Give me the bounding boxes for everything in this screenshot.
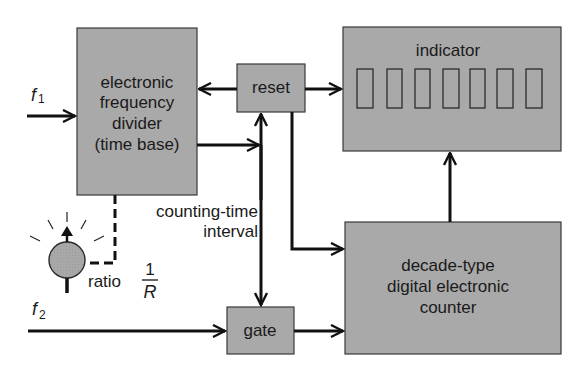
svg-text:divider: divider [112,114,162,133]
divider-label-line-1: electronic [101,73,174,92]
ratio-denominator: R [144,282,157,302]
svg-text:indicator: indicator [416,41,481,60]
svg-text:decade-type: decade-type [401,256,495,275]
counter-block: decade-type digital electronic counter [345,222,561,354]
svg-text:interval: interval [203,222,258,241]
svg-text:1: 1 [145,260,154,279]
svg-text:ratio: ratio [88,272,121,291]
block-diagram: electronic frequency divider (time base)… [0,0,582,379]
ratio-numerator: 1 [145,260,154,279]
counter-label-line-3: counter [420,298,477,317]
gate-label: gate [243,321,276,340]
svg-text:electronic: electronic [101,73,174,92]
counting-time-interval-label: counting-time interval [156,202,258,241]
f1-label: f1 [31,85,45,106]
dashed-link-knob-to-divider [86,195,115,263]
svg-text:reset: reset [252,78,290,97]
reset-label: reset [252,78,290,97]
svg-text:digital electronic: digital electronic [387,277,509,296]
gate-block: gate [227,307,294,354]
f2-label: f2 [32,299,46,322]
svg-text:gate: gate [243,321,276,340]
svg-text:(time base): (time base) [94,135,179,154]
divider-block: electronic frequency divider (time base) [77,28,197,195]
svg-text:f1: f1 [31,85,45,106]
divider-label-line-4: (time base) [94,135,179,154]
divider-label-line-2: frequency [100,93,175,112]
svg-text:R: R [144,282,157,302]
knob-pointer-arrowhead-icon [61,226,73,236]
counter-label-line-2: digital electronic [387,277,509,296]
indicator-block: indicator [343,27,561,151]
svg-text:counter: counter [420,298,477,317]
svg-text:counting-time: counting-time [156,202,258,221]
svg-text:frequency: frequency [100,93,175,112]
counter-label-line-1: decade-type [401,256,495,275]
arrow-reset-to-counter [292,112,343,249]
ratio-label: ratio 1 R [88,260,158,302]
svg-text:f2: f2 [32,299,46,322]
reset-block: reset [237,64,305,112]
knob-icon [49,242,85,278]
indicator-label: indicator [416,41,481,60]
divider-label-line-3: divider [112,114,162,133]
